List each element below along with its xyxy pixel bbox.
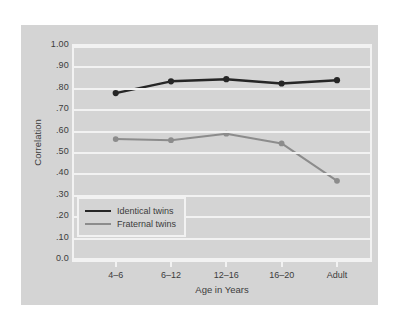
chart-figure: Correlation 1.00.90.80.70.60.50.40.30.20… xyxy=(0,0,401,327)
y-axis-tick-label: .80 xyxy=(29,83,69,92)
legend-item-fraternal: Fraternal twins xyxy=(85,217,176,230)
data-point xyxy=(223,76,229,82)
gridline xyxy=(74,152,370,154)
x-axis-title: Age in Years xyxy=(72,284,372,295)
x-axis-tick-label: 4–6 xyxy=(86,270,146,280)
data-point xyxy=(168,78,174,84)
data-point xyxy=(279,141,285,147)
y-axis-tick-label: .50 xyxy=(29,147,69,156)
data-point xyxy=(334,178,340,184)
legend-swatch-fraternal-icon xyxy=(85,223,111,225)
y-axis-tick-label: .40 xyxy=(29,168,69,177)
data-point xyxy=(279,80,285,86)
chart-panel: Correlation 1.00.90.80.70.60.50.40.30.20… xyxy=(21,25,378,305)
y-axis-tick-label: .10 xyxy=(29,233,69,242)
y-axis-tick-label: .60 xyxy=(29,126,69,135)
gridline xyxy=(74,131,370,133)
x-axis-tick-label: Adult xyxy=(307,270,367,280)
gridline xyxy=(74,109,370,111)
gridline xyxy=(74,66,370,68)
data-point xyxy=(113,136,119,142)
legend-item-identical: Identical twins xyxy=(85,204,176,217)
y-axis-tick-label: .90 xyxy=(29,61,69,70)
gridline xyxy=(74,173,370,175)
legend-label-identical: Identical twins xyxy=(117,206,174,216)
y-axis-tick-label: .30 xyxy=(29,190,69,199)
y-axis-tick-label: 0.0 xyxy=(29,254,69,263)
data-point xyxy=(168,137,174,143)
gridline xyxy=(74,258,370,260)
legend-label-fraternal: Fraternal twins xyxy=(117,219,176,229)
x-axis-tick-mark xyxy=(225,262,227,267)
x-axis-tick-label: 12–16 xyxy=(196,270,256,280)
data-point xyxy=(334,77,340,83)
x-axis-tick-label: 6–12 xyxy=(141,270,201,280)
y-axis-tick-label: .20 xyxy=(29,211,69,220)
x-axis-tick-mark xyxy=(281,262,283,267)
chart-legend: Identical twins Fraternal twins xyxy=(77,197,186,237)
gridline xyxy=(74,88,370,90)
data-point xyxy=(113,90,119,96)
x-axis-tick-mark xyxy=(170,262,172,267)
x-axis-tick-label: 16–20 xyxy=(252,270,312,280)
x-axis-tick-mark xyxy=(336,262,338,267)
legend-swatch-identical-icon xyxy=(85,210,111,212)
x-axis-tick-mark xyxy=(115,262,117,267)
y-axis-tick-label: 1.00 xyxy=(29,40,69,49)
y-axis-tick-labels: 1.00.90.80.70.60.50.40.30.20.100.0 xyxy=(25,44,69,262)
gridline xyxy=(74,46,370,48)
gridline xyxy=(74,238,370,240)
y-axis-tick-label: .70 xyxy=(29,104,69,113)
